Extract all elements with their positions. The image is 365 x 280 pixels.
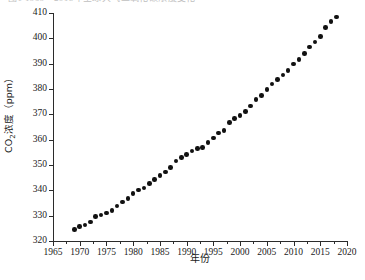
data-point bbox=[286, 68, 291, 73]
x-tick-minor bbox=[200, 242, 201, 244]
data-point bbox=[275, 77, 280, 82]
x-tick-mark bbox=[160, 242, 161, 246]
data-point bbox=[190, 149, 195, 154]
data-point bbox=[131, 191, 136, 196]
x-tick-mark bbox=[267, 242, 268, 246]
x-tick-mark bbox=[240, 242, 241, 246]
data-point bbox=[323, 25, 328, 30]
x-tick-mark bbox=[187, 242, 188, 246]
data-point bbox=[115, 204, 120, 209]
data-point bbox=[238, 113, 243, 118]
data-point bbox=[270, 82, 275, 87]
data-point bbox=[72, 227, 77, 232]
co2-concentration-figure: 图1 1969—2018年全球大气二氧化碳浓度变化 32033034035036… bbox=[0, 0, 365, 280]
x-tick-mark bbox=[213, 242, 214, 246]
data-point bbox=[222, 128, 227, 133]
data-point bbox=[254, 97, 259, 102]
data-point bbox=[211, 136, 216, 141]
data-point bbox=[334, 15, 339, 20]
data-point bbox=[206, 140, 211, 145]
y-tick-label: 340 bbox=[33, 186, 47, 196]
data-point bbox=[147, 181, 152, 186]
y-tick-label: 360 bbox=[33, 135, 47, 145]
data-point bbox=[126, 196, 131, 201]
data-point bbox=[104, 211, 109, 216]
data-point bbox=[163, 170, 168, 175]
y-tick-mark bbox=[49, 165, 53, 166]
data-point bbox=[297, 57, 302, 62]
data-point bbox=[318, 34, 323, 39]
x-tick-mark bbox=[320, 242, 321, 246]
y-tick-mark bbox=[49, 89, 53, 90]
x-tick-mark bbox=[294, 242, 295, 246]
data-point bbox=[83, 223, 88, 228]
data-point bbox=[174, 159, 179, 164]
x-tick-minor bbox=[280, 242, 281, 244]
x-tick-mark bbox=[80, 242, 81, 246]
x-tick-minor bbox=[93, 242, 94, 244]
y-tick-label: 330 bbox=[33, 211, 47, 221]
y-tick-label: 380 bbox=[33, 84, 47, 94]
data-point bbox=[184, 152, 189, 157]
x-tick-minor bbox=[66, 242, 67, 244]
data-point bbox=[291, 62, 296, 67]
x-tick-mark bbox=[53, 242, 54, 246]
data-point bbox=[216, 131, 221, 136]
y-tick-mark bbox=[49, 38, 53, 39]
x-axis-label: 年份 bbox=[53, 253, 347, 264]
y-axis-label: CO2浓度（ppm） bbox=[4, 54, 18, 172]
data-point bbox=[93, 214, 98, 219]
data-point bbox=[158, 173, 163, 178]
data-point bbox=[200, 145, 205, 150]
x-tick-minor bbox=[334, 242, 335, 244]
y-tick-label: 350 bbox=[33, 160, 47, 170]
data-point bbox=[168, 165, 173, 170]
y-tick-mark bbox=[49, 216, 53, 217]
y-tick-label: 320 bbox=[33, 236, 47, 246]
y-tick-mark bbox=[49, 190, 53, 191]
plot-area: 320330340350360370380390400410 196519701… bbox=[53, 13, 347, 241]
cut-off-caption: 图1 1969—2018年全球大气二氧化碳浓度变化 bbox=[8, 0, 357, 3]
y-tick-mark bbox=[49, 13, 53, 14]
data-point bbox=[195, 146, 200, 151]
y-axis-label-prefix: CO bbox=[3, 139, 14, 153]
x-tick-minor bbox=[307, 242, 308, 244]
data-point bbox=[77, 224, 82, 229]
y-tick-label: 390 bbox=[33, 59, 47, 69]
data-point bbox=[265, 87, 270, 92]
y-tick-mark bbox=[49, 64, 53, 65]
data-point bbox=[313, 40, 318, 45]
data-point bbox=[329, 19, 334, 24]
x-tick-mark bbox=[347, 242, 348, 246]
x-tick-minor bbox=[173, 242, 174, 244]
y-tick-label: 410 bbox=[33, 8, 47, 18]
data-point bbox=[88, 220, 93, 225]
data-point bbox=[136, 188, 141, 193]
data-point bbox=[179, 155, 184, 160]
data-point bbox=[110, 208, 115, 213]
y-axis-spine bbox=[53, 13, 54, 242]
y-tick-label: 400 bbox=[33, 34, 47, 44]
x-tick-minor bbox=[227, 242, 228, 244]
x-tick-mark bbox=[106, 242, 107, 246]
data-point bbox=[259, 93, 264, 98]
y-tick-label: 370 bbox=[33, 110, 47, 120]
x-tick-minor bbox=[147, 242, 148, 244]
y-axis-label-subscript: 2 bbox=[9, 134, 17, 138]
data-point bbox=[120, 200, 125, 205]
data-point bbox=[248, 104, 253, 109]
data-point bbox=[243, 109, 248, 114]
y-tick-mark bbox=[49, 114, 53, 115]
data-point bbox=[232, 116, 237, 121]
x-tick-minor bbox=[253, 242, 254, 244]
data-point bbox=[302, 51, 307, 56]
data-point bbox=[281, 73, 286, 78]
data-point bbox=[307, 45, 312, 50]
data-point bbox=[142, 186, 147, 191]
x-tick-minor bbox=[120, 242, 121, 244]
x-tick-mark bbox=[133, 242, 134, 246]
y-tick-mark bbox=[49, 140, 53, 141]
data-point bbox=[99, 213, 104, 218]
data-point bbox=[152, 177, 157, 182]
y-axis-label-suffix: 浓度（ppm） bbox=[3, 73, 14, 134]
